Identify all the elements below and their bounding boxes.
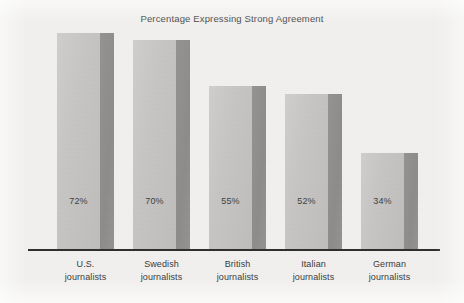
bar-value-label: 52%: [285, 196, 328, 206]
x-axis-line: [28, 249, 440, 251]
bar-side-face: [100, 33, 114, 251]
category-label-5: Germanjournalists: [340, 258, 439, 283]
category-label-line: journalists: [340, 271, 439, 284]
bar-side-face: [176, 40, 190, 251]
bar-italian-journalists: [285, 94, 342, 251]
bar-value-label: 55%: [209, 196, 252, 206]
bar-swedish-journalists: [133, 40, 190, 251]
bar-value-label: 34%: [361, 196, 404, 206]
bar-front-face: [133, 40, 176, 251]
bar-front-face: [57, 33, 100, 251]
bar-side-face: [252, 86, 266, 251]
bar-british-journalists: [209, 86, 266, 251]
bar-value-label: 72%: [57, 196, 100, 206]
bar-u-s-journalists: [57, 33, 114, 251]
bar-side-face: [328, 94, 342, 251]
bar-chart-figure: Percentage Expressing Strong Agreement 7…: [0, 0, 464, 303]
bar-value-label: 70%: [133, 196, 176, 206]
plot-area: 72%70%55%52%34%: [0, 0, 464, 251]
chart-title: Percentage Expressing Strong Agreement: [0, 13, 464, 24]
bar-side-face: [404, 153, 418, 251]
category-label-line: German: [340, 258, 439, 271]
bar-front-face: [285, 94, 328, 251]
bar-front-face: [209, 86, 252, 251]
category-axis: U.S.journalistsSwedishjournalistsBritish…: [0, 255, 464, 295]
